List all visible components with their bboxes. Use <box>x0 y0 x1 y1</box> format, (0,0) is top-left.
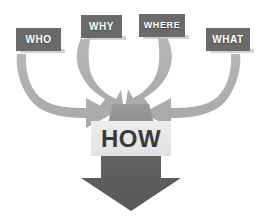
arrow-what <box>143 54 240 128</box>
question-box-where-label: WHERE <box>144 21 181 30</box>
question-box-who-label: WHO <box>25 35 51 45</box>
question-box-why[interactable]: WHY <box>81 15 122 38</box>
question-box-why-label: WHY <box>89 22 114 32</box>
question-box-what[interactable]: WHAT <box>206 28 250 51</box>
diagram-canvas: WHO WHY WHERE WHAT HOW <box>0 0 257 216</box>
question-box-what-label: WHAT <box>212 35 244 45</box>
question-box-who[interactable]: WHO <box>16 28 61 51</box>
big-down-arrow <box>81 150 181 211</box>
center-box-how[interactable]: HOW <box>91 121 171 156</box>
question-box-where[interactable]: WHERE <box>139 14 185 37</box>
center-box-how-label: HOW <box>101 127 161 151</box>
